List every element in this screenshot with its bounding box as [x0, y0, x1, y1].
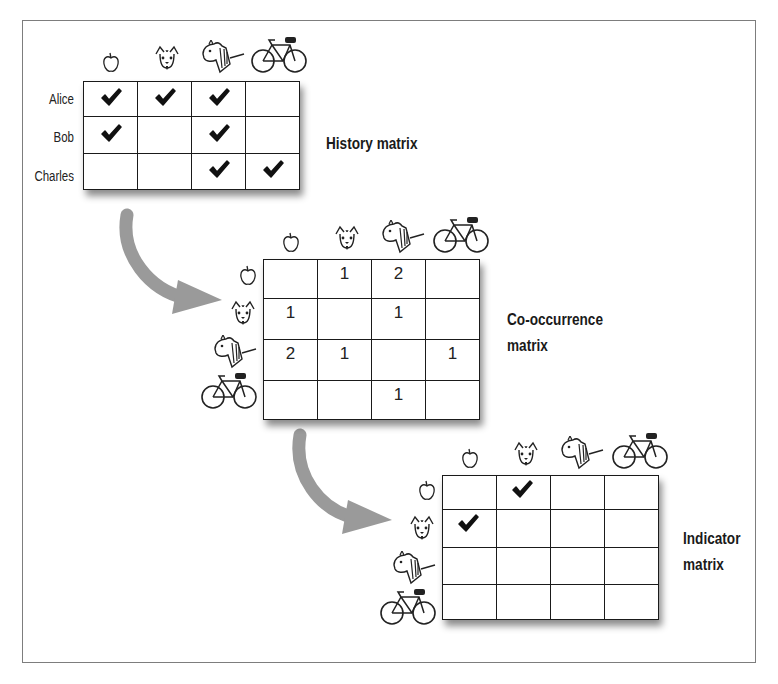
history-row [84, 117, 300, 154]
bicycle-icon [379, 586, 437, 630]
apple-icon [281, 232, 301, 258]
row-label-alice: Alice [17, 91, 74, 107]
matrix-cell [264, 260, 318, 299]
history-matrix [83, 81, 300, 190]
arrow-history-to-cooccurrence [126, 215, 222, 314]
matrix-cell [426, 260, 480, 299]
matrix-cell [138, 82, 192, 117]
indicator-row [443, 476, 659, 510]
matrix-cell [443, 476, 497, 510]
matrix-cell [551, 548, 605, 585]
cooccurrence-count: 1 [340, 344, 349, 363]
cooccurrence-count: 2 [394, 264, 403, 283]
bicycle-icon [611, 430, 669, 474]
cooccurrence-count: 1 [394, 303, 403, 322]
matrix-cell [426, 299, 480, 340]
matrix-cell [138, 117, 192, 154]
checkmark-icon [154, 92, 176, 111]
row-label-charles: Charles [17, 168, 74, 184]
matrix-cell [551, 476, 605, 510]
matrix-cell [443, 548, 497, 585]
history-row [84, 82, 300, 117]
row-label-bob: Bob [17, 129, 74, 145]
matrix-cell: 1 [264, 299, 318, 340]
cooccurrence-count: 1 [448, 344, 457, 363]
pony-icon [380, 220, 426, 258]
puppy-icon [407, 514, 437, 548]
matrix-cell [443, 510, 497, 548]
cooccurrence-matrix: 12112111 [263, 259, 480, 420]
matrix-cell [605, 476, 659, 510]
indicator-matrix-title: Indicator matrix [683, 526, 740, 578]
matrix-cell [246, 154, 300, 190]
matrix-cell [605, 585, 659, 620]
indicator-row [443, 548, 659, 585]
matrix-cell [246, 82, 300, 117]
pony-icon [391, 551, 437, 589]
matrix-cell [138, 154, 192, 190]
checkmark-icon [208, 164, 230, 183]
cooccurrence-title-line2: matrix [507, 333, 603, 359]
checkmark-icon [100, 92, 122, 111]
pony-icon [212, 335, 258, 373]
apple-icon [460, 448, 480, 474]
matrix-cell [318, 381, 372, 420]
matrix-cell [497, 585, 551, 620]
matrix-cell [84, 154, 138, 190]
matrix-cell: 1 [372, 299, 426, 340]
apple-icon [417, 480, 437, 506]
indicator-row [443, 585, 659, 620]
history-matrix-title: History matrix [326, 131, 417, 157]
bicycle-icon [200, 370, 258, 414]
cooccurrence-row: 11 [264, 299, 480, 340]
matrix-cell [497, 510, 551, 548]
cooccurrence-count: 2 [286, 344, 295, 363]
matrix-cell [605, 548, 659, 585]
matrix-cell [84, 82, 138, 117]
bicycle-icon [432, 214, 490, 258]
puppy-icon [228, 299, 258, 333]
matrix-cell [246, 117, 300, 154]
pony-icon [559, 436, 605, 474]
matrix-cell [372, 340, 426, 381]
cooccurrence-row: 1 [264, 381, 480, 420]
cooccurrence-row: 12 [264, 260, 480, 299]
matrix-cell: 2 [372, 260, 426, 299]
checkmark-icon [208, 92, 230, 111]
checkmark-icon [262, 164, 284, 183]
cooccurrence-row: 211 [264, 340, 480, 381]
pony-icon [200, 40, 246, 78]
matrix-cell [192, 154, 246, 190]
checkmark-icon [511, 479, 533, 504]
history-row [84, 154, 300, 190]
cooccurrence-count: 1 [286, 303, 295, 322]
matrix-cell: 2 [264, 340, 318, 381]
indicator-title-line1: Indicator [683, 526, 740, 552]
indicator-title-line2: matrix [683, 552, 740, 578]
matrix-cell [551, 585, 605, 620]
matrix-cell [426, 381, 480, 420]
cooccurrence-matrix-title: Co-occurrence matrix [507, 307, 603, 359]
indicator-matrix [442, 475, 659, 620]
cooccurrence-title-line1: Co-occurrence [507, 307, 603, 333]
matrix-cell: 1 [318, 340, 372, 381]
puppy-icon [332, 224, 362, 258]
puppy-icon [152, 44, 182, 78]
apple-icon [101, 52, 121, 78]
apple-icon [238, 265, 258, 291]
matrix-cell: 1 [318, 260, 372, 299]
checkmark-icon [100, 128, 122, 147]
matrix-cell: 1 [372, 381, 426, 420]
matrix-cell [497, 548, 551, 585]
matrix-cell [264, 381, 318, 420]
matrix-cell [443, 585, 497, 620]
bicycle-icon [250, 34, 308, 78]
cooccurrence-count: 1 [340, 264, 349, 283]
matrix-cell [551, 510, 605, 548]
cooccurrence-count: 1 [394, 385, 403, 404]
checkmark-icon [208, 128, 230, 147]
matrix-cell [84, 117, 138, 154]
matrix-cell [605, 510, 659, 548]
checkmark-icon [457, 513, 479, 538]
matrix-cell [497, 476, 551, 510]
